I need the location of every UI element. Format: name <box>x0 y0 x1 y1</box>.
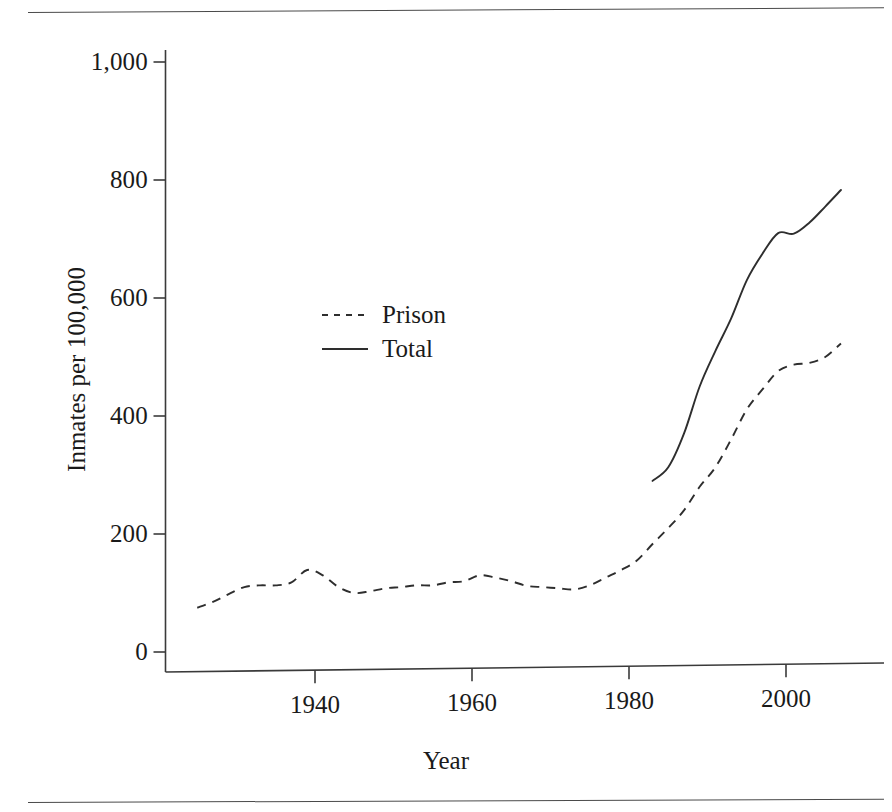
x-axis-title: Year <box>0 748 892 773</box>
legend-swatch-prison <box>322 314 368 316</box>
legend-label-total: Total <box>382 333 433 365</box>
legend-item-prison: Prison <box>322 299 532 333</box>
series-line-prison <box>197 343 841 607</box>
x-tick-label: 1980 <box>604 688 654 713</box>
chart-legend: Prison Total <box>322 299 532 367</box>
x-tick-label: 2000 <box>761 686 811 711</box>
x-tick-label: 1960 <box>447 690 497 715</box>
y-tick-label: 1,000 <box>48 49 148 74</box>
legend-swatch-total <box>322 348 368 350</box>
y-axis-tick-labels: 02004006008001,000 <box>45 0 148 812</box>
figure-container: 02004006008001,000 1940196019802000 Inma… <box>0 0 892 812</box>
legend-label-prison: Prison <box>382 299 446 331</box>
legend-item-total: Total <box>322 333 532 367</box>
x-tick-label: 1940 <box>290 692 340 717</box>
y-axis-title: Inmates per 100,000 <box>64 190 89 550</box>
y-tick-label: 800 <box>48 167 148 192</box>
series-line-total <box>653 190 841 481</box>
y-axis-ticks <box>154 62 166 652</box>
x-axis-line <box>166 663 885 672</box>
y-tick-label: 0 <box>48 639 148 664</box>
